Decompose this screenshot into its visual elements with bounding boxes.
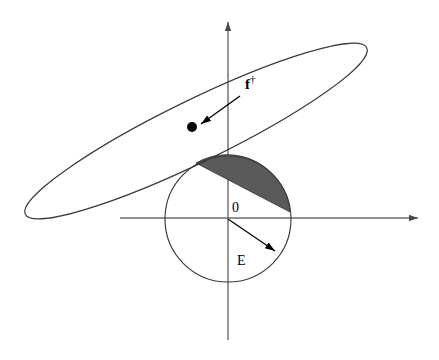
dagger-superscript: † — [250, 73, 256, 85]
f-dagger-pointer-arrow — [201, 96, 240, 124]
intersection-lens-fill — [196, 155, 290, 212]
elongated-ellipse — [12, 20, 381, 242]
math-figure: f† 0 E — [0, 0, 439, 360]
f-dagger-point — [187, 122, 197, 132]
f-dagger-label: f† — [245, 73, 256, 92]
diagram-canvas: f† 0 E — [0, 0, 439, 360]
origin-label: 0 — [232, 200, 239, 215]
radius-arrow — [228, 219, 275, 251]
radius-label-E: E — [237, 253, 246, 268]
shaded-intersection-region — [196, 155, 290, 212]
